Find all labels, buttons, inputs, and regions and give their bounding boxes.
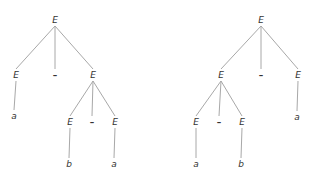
tree-edge [92, 81, 93, 116]
tree-node-minus-operator: – [53, 70, 58, 80]
tree-node-terminal-b: b [238, 159, 244, 169]
right-tree-edges [196, 26, 298, 158]
tree-edge [70, 81, 93, 116]
tree-node-minus-operator: – [259, 70, 264, 80]
tree-edge [55, 26, 93, 69]
left-tree: EE–EaE–Eba [11, 15, 118, 169]
tree-node-nonterminal: E [258, 15, 264, 25]
tree-edge [221, 26, 261, 69]
tree-edge [297, 81, 298, 111]
tree-node-nonterminal: E [239, 117, 245, 127]
parse-tree-diagram: EE–EaE–EbaEE–EaE–Eab [0, 0, 312, 181]
tree-edge [241, 128, 242, 158]
tree-node-terminal-a: a [193, 159, 199, 169]
left-tree-edges [14, 26, 115, 158]
tree-node-terminal-a: a [111, 159, 117, 169]
right-tree: EE–EaE–Eab [193, 15, 301, 169]
tree-node-nonterminal: E [193, 117, 199, 127]
tree-edge [14, 81, 16, 110]
tree-edge [196, 81, 221, 116]
tree-edge [219, 81, 221, 116]
tree-node-nonterminal: E [295, 70, 301, 80]
tree-node-nonterminal: E [52, 15, 58, 25]
tree-edge [16, 26, 55, 69]
tree-node-nonterminal: E [90, 70, 96, 80]
tree-node-nonterminal: E [67, 117, 73, 127]
tree-node-minus-operator: – [217, 117, 222, 127]
tree-node-terminal-a: a [294, 112, 300, 122]
tree-edges [14, 26, 298, 158]
tree-edge [221, 81, 242, 116]
tree-edge [69, 128, 70, 158]
tree-node-terminal-b: b [66, 159, 72, 169]
tree-node-nonterminal: E [112, 117, 118, 127]
tree-edge [93, 81, 115, 116]
tree-node-terminal-a: a [11, 111, 17, 121]
tree-node-nonterminal: E [13, 70, 19, 80]
tree-edge [114, 128, 115, 158]
tree-node-nonterminal: E [218, 70, 224, 80]
tree-edge [261, 26, 298, 69]
tree-node-minus-operator: – [90, 117, 95, 127]
